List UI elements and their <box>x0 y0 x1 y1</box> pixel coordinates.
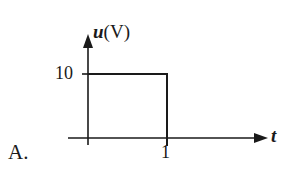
y-axis-variable: u <box>93 21 104 42</box>
y-axis-title: u(V) <box>93 22 130 41</box>
waveform-plot <box>0 0 283 187</box>
x-axis-title: t <box>271 126 276 145</box>
x-tick-label-1: 1 <box>161 143 170 161</box>
x-axis-arrowhead <box>254 133 268 143</box>
y-axis-unit: (V) <box>104 21 130 42</box>
waveform-figure-option-a: A. u(V) 10 1 t <box>0 0 283 187</box>
y-tick-label-10: 10 <box>55 64 73 82</box>
option-letter-label: A. <box>8 142 28 163</box>
y-axis-arrowhead <box>83 34 93 48</box>
